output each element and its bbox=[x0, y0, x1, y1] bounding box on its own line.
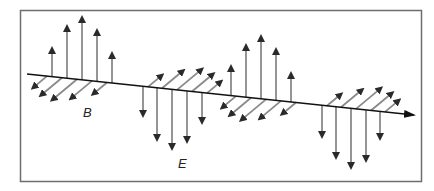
label-b: B bbox=[83, 105, 92, 120]
figure-frame bbox=[21, 11, 422, 182]
em-wave-diagram: B E bbox=[0, 0, 434, 191]
label-e: E bbox=[178, 156, 187, 171]
